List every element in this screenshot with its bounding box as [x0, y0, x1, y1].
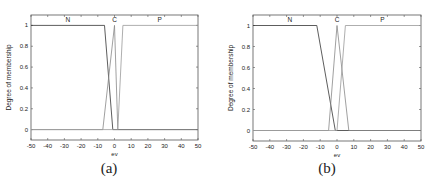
caption-a: (a)	[0, 160, 218, 177]
x-tick-label: 50	[195, 143, 202, 149]
y-tick-label: 0.2	[20, 106, 29, 112]
set-label-c: C	[335, 16, 340, 23]
membership-curve-n	[31, 25, 198, 129]
chart-panel-b: -50-40-30-20-100102030405000.20.40.60.81…	[218, 0, 436, 192]
y-tick-label: 0.8	[20, 43, 29, 49]
membership-curve-p	[253, 26, 421, 131]
x-axis-label: ev	[111, 151, 117, 157]
y-axis-label: Degree of membership	[5, 44, 13, 110]
membership-plot-a: -50-40-30-20-100102030405000.20.40.60.81…	[0, 0, 218, 160]
x-tick-label: -50	[27, 143, 36, 149]
y-tick-label: 0.4	[242, 86, 251, 92]
plot-frame	[253, 15, 421, 141]
set-label-c: C	[112, 16, 117, 23]
x-tick-label: 30	[161, 143, 168, 149]
y-tick-label: 0.4	[20, 85, 29, 91]
y-tick-label: 1	[25, 22, 29, 28]
chart-panel-a: -50-40-30-20-100102030405000.20.40.60.81…	[0, 0, 218, 192]
y-tick-label: 0	[247, 128, 251, 134]
x-tick-label: -10	[93, 143, 102, 149]
membership-curve-n	[253, 26, 421, 131]
x-tick-label: 40	[178, 143, 185, 149]
x-tick-label: 0	[113, 143, 117, 149]
x-tick-label: 10	[128, 143, 135, 149]
x-tick-label: 10	[350, 144, 357, 150]
y-tick-label: 0.8	[242, 44, 251, 50]
x-tick-label: 20	[367, 144, 374, 150]
y-tick-label: 0.2	[242, 107, 251, 113]
x-tick-label: -20	[77, 143, 86, 149]
caption-b: (b)	[218, 160, 436, 177]
y-axis-label: Degree of membership	[227, 45, 235, 111]
membership-curve-c	[253, 26, 421, 131]
x-tick-label: -40	[43, 143, 52, 149]
set-label-p: P	[157, 16, 161, 23]
y-tick-label: 1	[247, 23, 251, 29]
x-tick-label: 30	[384, 144, 391, 150]
set-label-n: N	[65, 16, 70, 23]
x-tick-label: -30	[60, 143, 69, 149]
x-tick-label: 50	[418, 144, 425, 150]
membership-curve-c	[31, 25, 198, 129]
x-tick-label: 20	[145, 143, 152, 149]
x-tick-label: 40	[401, 144, 408, 150]
x-tick-label: -40	[265, 144, 274, 150]
y-tick-label: 0	[25, 127, 29, 133]
x-axis-label: ev	[334, 152, 340, 158]
x-tick-label: -30	[282, 144, 291, 150]
set-label-n: N	[288, 16, 293, 23]
x-tick-label: -50	[249, 144, 258, 150]
membership-plot-b: -50-40-30-20-100102030405000.20.40.60.81…	[218, 0, 436, 160]
y-tick-label: 0.6	[20, 64, 29, 70]
x-tick-label: -20	[299, 144, 308, 150]
x-tick-label: -10	[316, 144, 325, 150]
y-tick-label: 0.6	[242, 65, 251, 71]
membership-curve-p	[31, 25, 198, 129]
set-label-p: P	[380, 16, 384, 23]
x-tick-label: 0	[335, 144, 339, 150]
